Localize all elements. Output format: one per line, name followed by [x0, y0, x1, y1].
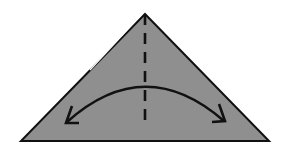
origami-diagram [0, 0, 283, 162]
fold-diagram-svg [0, 0, 283, 162]
